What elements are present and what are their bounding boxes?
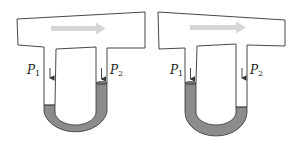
duct-outline <box>17 12 145 105</box>
flow-arrow-icon <box>190 22 246 34</box>
left-manometer: P1 P2 <box>17 12 145 132</box>
p2-label: P2 <box>109 63 123 78</box>
flow-arrow-icon <box>51 23 106 35</box>
fluid-column <box>44 83 107 132</box>
p2-label: P2 <box>249 63 263 78</box>
p1-label: P1 <box>169 63 183 78</box>
fluid-column <box>185 83 247 136</box>
p1-label: P1 <box>26 63 40 78</box>
manometer-diagram: P1 P2 P1 P2 <box>0 0 303 146</box>
right-manometer: P1 P2 <box>158 12 285 136</box>
